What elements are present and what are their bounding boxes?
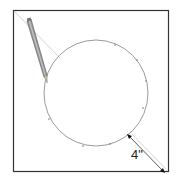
dimension-label: 4": [131, 147, 143, 162]
diagram-canvas: 4": [0, 0, 178, 182]
